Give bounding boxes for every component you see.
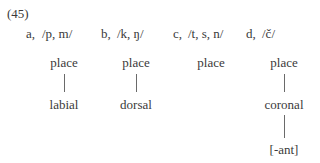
column-c-segments: /t, s, n/: [188, 26, 223, 41]
column-d-association-line-1: [284, 74, 285, 92]
column-a-segments: /p, m/: [42, 26, 72, 41]
column-d-segments: /č/: [262, 26, 275, 41]
column-b-association-line: [136, 74, 137, 92]
column-d-node-place: place: [270, 55, 297, 70]
column-d-label: d,: [246, 26, 256, 41]
column-b-node-dorsal: dorsal: [120, 97, 152, 112]
column-c-label: c,: [173, 26, 182, 41]
column-b-label: b,: [101, 26, 111, 41]
column-a-association-line: [64, 74, 65, 92]
column-c-node-place: place: [197, 55, 224, 70]
column-a-node-labial: labial: [50, 97, 79, 112]
column-d-node-ant: [-ant]: [270, 142, 299, 157]
column-a-label: a,: [26, 26, 35, 41]
column-d-association-line-2: [284, 115, 285, 138]
column-d-node-coronal: coronal: [265, 97, 304, 112]
column-b-segments: /k, ŋ/: [117, 26, 144, 41]
column-b-node-place: place: [122, 55, 149, 70]
example-number: (45): [7, 6, 29, 21]
column-a-node-place: place: [50, 55, 77, 70]
